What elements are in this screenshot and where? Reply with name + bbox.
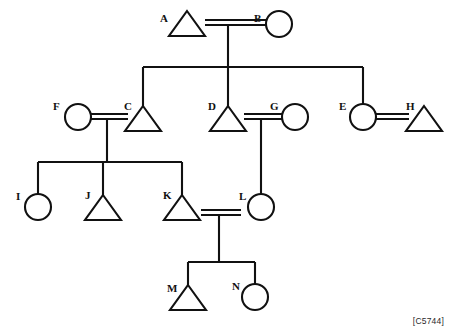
symbol-a-male-triangle[interactable]: [169, 11, 205, 36]
label-d: D: [208, 100, 216, 112]
label-b: B: [254, 12, 262, 24]
pedigree-canvas: A B F C D G E: [0, 0, 454, 332]
symbol-i-female-circle[interactable]: [25, 194, 51, 220]
label-j: J: [85, 189, 91, 201]
mating-d-g: [244, 114, 282, 119]
label-e: E: [339, 100, 346, 112]
pedigree-figure: A B F C D G E: [0, 0, 454, 332]
label-h: H: [406, 100, 415, 112]
symbol-g-female-circle[interactable]: [282, 104, 308, 130]
mating-e-h: [376, 114, 409, 119]
label-f: F: [53, 100, 60, 112]
symbol-l-female-circle[interactable]: [248, 194, 274, 220]
symbol-f-female-circle[interactable]: [65, 104, 91, 130]
label-n: N: [232, 280, 240, 292]
symbol-e-female-circle[interactable]: [350, 104, 376, 130]
label-c: C: [124, 100, 132, 112]
label-i: I: [16, 190, 20, 202]
mating-f-c: [91, 114, 128, 119]
figure-caption: [C5744]: [413, 316, 444, 326]
label-a: A: [160, 12, 168, 24]
label-l: L: [239, 190, 246, 202]
mating-k-l: [201, 210, 241, 215]
label-m: M: [167, 282, 178, 294]
symbol-n-female-circle[interactable]: [242, 284, 268, 310]
label-k: K: [163, 189, 172, 201]
symbol-b-female-circle[interactable]: [266, 11, 292, 37]
label-g: G: [270, 100, 279, 112]
